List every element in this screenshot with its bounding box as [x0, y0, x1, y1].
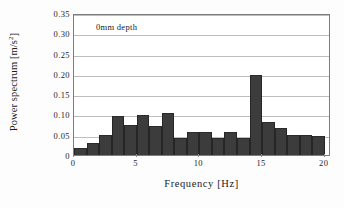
power-spectrum-chart: Power spectrum [m/s2] 00.050.100.150.200… — [0, 0, 344, 208]
plot-area: 0mm depth — [73, 14, 330, 156]
bar — [287, 135, 300, 155]
x-tick-label: 20 — [319, 158, 328, 168]
bar — [237, 138, 250, 155]
bar — [262, 122, 275, 155]
y-axis-tick-labels: 00.050.100.150.200.250.300.35 — [34, 14, 70, 156]
x-tick-mark — [324, 154, 325, 157]
x-axis-title: Frequency [Hz] — [73, 178, 330, 189]
bar — [149, 126, 162, 155]
x-tick-mark — [261, 154, 262, 157]
y-tick-label: 0.10 — [34, 110, 70, 120]
y-axis-title-superscript: 2 — [7, 36, 15, 40]
bar — [187, 132, 200, 155]
y-axis-title-text: Power spectrum [m/s — [8, 40, 19, 131]
bar — [74, 148, 87, 155]
x-tick-label: 0 — [71, 158, 76, 168]
y-axis-title-suffix: ] — [8, 33, 19, 37]
y-tick-label: 0.05 — [34, 131, 70, 141]
y-tick-label: 0.20 — [34, 70, 70, 80]
x-tick-mark — [73, 154, 74, 157]
bar — [112, 116, 125, 155]
x-axis-tick-labels: 05101520 — [73, 158, 330, 172]
bar — [99, 135, 112, 155]
bar — [162, 113, 175, 155]
bar-series — [74, 15, 329, 155]
y-tick-label: 0.15 — [34, 90, 70, 100]
y-axis-title: Power spectrum [m/s2] — [6, 7, 22, 157]
bar — [250, 75, 263, 155]
bar — [224, 132, 237, 155]
x-tick-label: 10 — [194, 158, 203, 168]
x-tick-mark — [136, 154, 137, 157]
bar — [174, 138, 187, 155]
bar — [312, 136, 325, 155]
bar — [199, 132, 212, 155]
x-tick-label: 5 — [133, 158, 138, 168]
bar — [300, 135, 313, 155]
bar — [212, 138, 225, 155]
bar — [124, 125, 137, 155]
y-tick-label: 0.35 — [34, 9, 70, 19]
y-tick-label: 0 — [34, 151, 70, 161]
bar — [87, 143, 100, 155]
x-tick-mark — [198, 154, 199, 157]
x-tick-label: 15 — [256, 158, 265, 168]
y-tick-label: 0.25 — [34, 50, 70, 60]
bar — [275, 128, 288, 155]
y-tick-label: 0.30 — [34, 29, 70, 39]
bar — [137, 115, 150, 155]
